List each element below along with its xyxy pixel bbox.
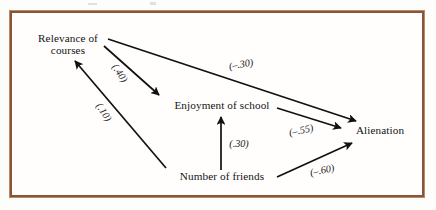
node-relevance-of-courses: Relevance of courses (38, 32, 98, 57)
figure-canvas: Relevance of courses Enjoyment of school… (0, 0, 436, 210)
node-enjoyment-of-school: Enjoyment of school (174, 99, 269, 111)
node-label-line1: Alienation (356, 124, 404, 136)
node-number-of-friends: Number of friends (180, 170, 264, 182)
node-label-line2: courses (51, 44, 85, 56)
node-label-line1: Relevance of (38, 32, 98, 44)
node-alienation: Alienation (356, 124, 404, 136)
node-label-line1: Number of friends (180, 170, 264, 182)
coefficient-friends-to-enjoyment: (.30) (229, 138, 249, 149)
node-label-line1: Enjoyment of school (174, 99, 269, 111)
